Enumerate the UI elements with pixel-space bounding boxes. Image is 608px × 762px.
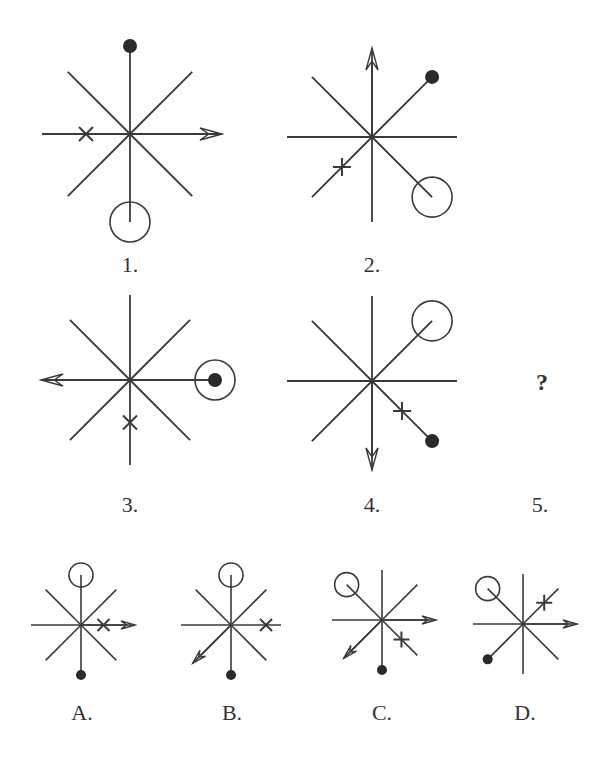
figure-label-1: 1. xyxy=(122,252,139,278)
ray-nw xyxy=(68,72,130,134)
ray-sw xyxy=(46,625,81,660)
filled-dot-icon xyxy=(425,434,439,448)
ray-sw xyxy=(70,380,130,440)
filled-dot-icon xyxy=(425,70,439,84)
option-label-c[interactable]: C. xyxy=(372,700,392,726)
ray-ne xyxy=(372,321,432,381)
figure-label-2: 2. xyxy=(364,252,381,278)
filled-dot-icon xyxy=(226,670,236,680)
arrow-shaft xyxy=(193,625,231,663)
option-a[interactable] xyxy=(31,563,135,680)
question-mark: ? xyxy=(536,369,548,396)
option-label-a[interactable]: A. xyxy=(71,700,92,726)
option-label-d[interactable]: D. xyxy=(514,700,535,726)
ray-se xyxy=(130,380,190,440)
figure-3 xyxy=(41,295,235,465)
ray-ne xyxy=(372,77,432,137)
option-c[interactable] xyxy=(332,570,436,675)
option-label-b[interactable]: B. xyxy=(222,700,242,726)
figure-label-5: 5. xyxy=(532,492,549,518)
arrow-shaft xyxy=(344,620,382,658)
ray-sw xyxy=(68,134,130,196)
ray-se xyxy=(382,620,417,655)
ray-ne xyxy=(130,320,190,380)
filled-dot-icon xyxy=(377,665,387,675)
ray-ne xyxy=(523,589,558,624)
option-b[interactable] xyxy=(181,563,281,680)
filled-dot-icon xyxy=(208,373,222,387)
ray-sw xyxy=(312,381,372,441)
filled-dot-icon xyxy=(76,670,86,680)
ray-sw xyxy=(488,624,523,659)
figure-2 xyxy=(287,48,457,222)
ray-ne xyxy=(130,72,192,134)
ray-nw xyxy=(46,590,81,625)
ray-nw xyxy=(312,321,372,381)
figure-4 xyxy=(287,296,457,470)
ray-se xyxy=(372,137,432,197)
ray-se xyxy=(523,624,558,659)
ray-nw xyxy=(196,590,231,625)
ray-nw xyxy=(347,585,382,620)
figure-label-3: 3. xyxy=(122,492,139,518)
puzzle-canvas xyxy=(0,0,608,762)
ray-nw xyxy=(488,589,523,624)
ray-nw xyxy=(312,77,372,137)
figure-label-4: 4. xyxy=(364,492,381,518)
option-d[interactable] xyxy=(473,574,577,674)
ray-nw xyxy=(70,320,130,380)
ray-ne xyxy=(382,585,417,620)
figure-1 xyxy=(42,39,222,242)
ray-se xyxy=(130,134,192,196)
filled-dot-icon xyxy=(123,39,137,53)
filled-dot-icon xyxy=(483,654,493,664)
